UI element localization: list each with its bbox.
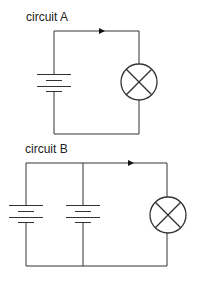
circuit-b [9,163,186,266]
circuit-diagrams [0,0,197,285]
current-arrow-icon [128,160,134,166]
cell-icon [37,75,71,92]
current-arrow-icon [99,28,105,34]
lamp-icon [150,197,186,233]
cell-1-icon [9,206,43,223]
cell-2-icon [66,206,100,223]
circuit-a-top-wire [54,31,139,74]
circuit-b-bottom-wire [26,223,167,266]
lamp-icon [121,64,157,100]
circuit-a-bottom-wire [54,92,139,134]
circuit-b-top-wire [26,163,167,205]
circuit-a [37,31,157,134]
